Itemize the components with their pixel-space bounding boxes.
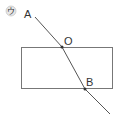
label-A: A [24, 8, 32, 20]
svg-text:ウ: ウ [7, 7, 15, 16]
glass-block [22, 48, 113, 89]
panel-label: ウ [6, 6, 16, 16]
label-B: B [86, 76, 93, 88]
label-O: O [64, 35, 73, 47]
refraction-diagram: ウ A O B [0, 0, 127, 125]
refracted-ray [62, 47, 85, 89]
incident-ray [35, 17, 62, 47]
emergent-ray [85, 89, 110, 114]
